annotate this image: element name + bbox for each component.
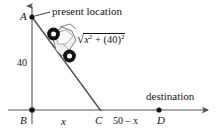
expr-plus: + xyxy=(95,34,101,45)
point-b-dot xyxy=(29,107,35,113)
distance-expression: √x2 + (40)2 xyxy=(77,32,125,46)
point-b-label: B xyxy=(20,115,27,126)
point-d-dot xyxy=(156,107,161,112)
diagram-canvas xyxy=(0,0,217,134)
point-d-label: D xyxy=(157,115,165,126)
segment-bc-label: x xyxy=(61,116,66,127)
radicand: x2 + (40)2 xyxy=(83,33,125,45)
destination-label: destination xyxy=(146,91,194,102)
vertical-leg-label: 40 xyxy=(17,58,27,68)
point-a-dot xyxy=(29,14,34,19)
point-c-label: C xyxy=(95,115,102,126)
expr-term1-exponent: 2 xyxy=(89,33,93,41)
segment-cd-label: 50 – x xyxy=(113,116,138,126)
expr-term2-exponent: 2 xyxy=(121,33,125,41)
point-a-label: A xyxy=(20,11,27,22)
geometry-figure: A B C D 40 x 50 – x present location des… xyxy=(0,0,217,134)
present-location-label: present location xyxy=(52,6,122,17)
leader-line-icon xyxy=(35,12,50,16)
expr-term2-base: (40) xyxy=(103,34,121,45)
